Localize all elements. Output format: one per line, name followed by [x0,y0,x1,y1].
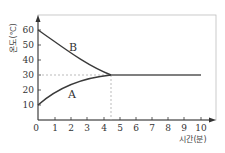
y-axis-title: 온도(℃) [9,23,18,52]
y-tick-label: 20 [23,85,35,95]
x-tick-label: 9 [181,123,187,133]
x-axis-title: 시간(분) [179,134,206,144]
x-tick-label: 10 [195,123,207,133]
x-tick-label: 4 [101,123,107,133]
temperature-time-chart: 10 20 30 40 50 60 0 1 2 3 4 5 6 7 8 9 10 [0,0,225,153]
y-tick-label: 30 [23,70,35,80]
x-axis-arrow-icon [209,118,216,123]
y-tick-label: 50 [23,40,35,50]
plot-frame [38,15,216,120]
x-tick-labels: 0 1 2 3 4 5 6 7 8 9 10 [33,123,207,133]
y-tick-label: 60 [23,25,35,35]
x-tick-label: 5 [117,123,123,133]
y-tick-label: 10 [23,100,35,110]
curve-a-label: A [67,88,77,101]
y-tick-label: 40 [23,55,35,65]
y-axis-arrow-icon [36,15,41,22]
x-tick-label: 8 [165,123,171,133]
x-tick-label: 0 [33,123,39,133]
x-tick-label: 7 [149,123,155,133]
x-tick-label: 6 [133,123,139,133]
x-tick-label: 3 [84,123,90,133]
y-tick-labels: 10 20 30 40 50 60 [23,25,35,110]
x-tick-label: 2 [68,123,74,133]
x-tick-label: 1 [52,123,58,133]
curve-b-label: B [69,41,77,54]
